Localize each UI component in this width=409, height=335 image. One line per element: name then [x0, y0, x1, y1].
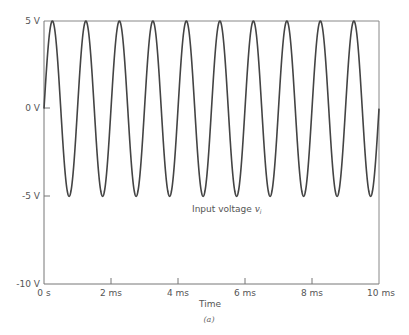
- series-annotation: Input voltage vi: [192, 204, 262, 215]
- x-tick-label-2: 2 ms: [100, 288, 122, 298]
- chart: 5 V 0 V -5 V -10 V 0 s 2 ms 4 ms 6 ms 8 …: [0, 0, 409, 335]
- annotation-text: Input voltage: [192, 204, 255, 214]
- y-tick-label-5: 5 V: [25, 16, 41, 26]
- x-tick-label-8: 8 ms: [301, 288, 323, 298]
- x-tick-label-0: 0 s: [37, 288, 51, 298]
- sine-wave-input-voltage: [44, 21, 379, 196]
- x-tick-label-6: 6 ms: [234, 288, 256, 298]
- annotation-subscript: i: [260, 208, 262, 215]
- y-tick-label-m5: -5 V: [22, 191, 41, 201]
- x-axis-title: Time: [198, 299, 221, 309]
- x-tick-label-4: 4 ms: [167, 288, 189, 298]
- y-tick-label-0: 0 V: [25, 103, 41, 113]
- figure-caption: (a): [203, 315, 214, 324]
- x-tick-label-10: 10 ms: [367, 288, 395, 298]
